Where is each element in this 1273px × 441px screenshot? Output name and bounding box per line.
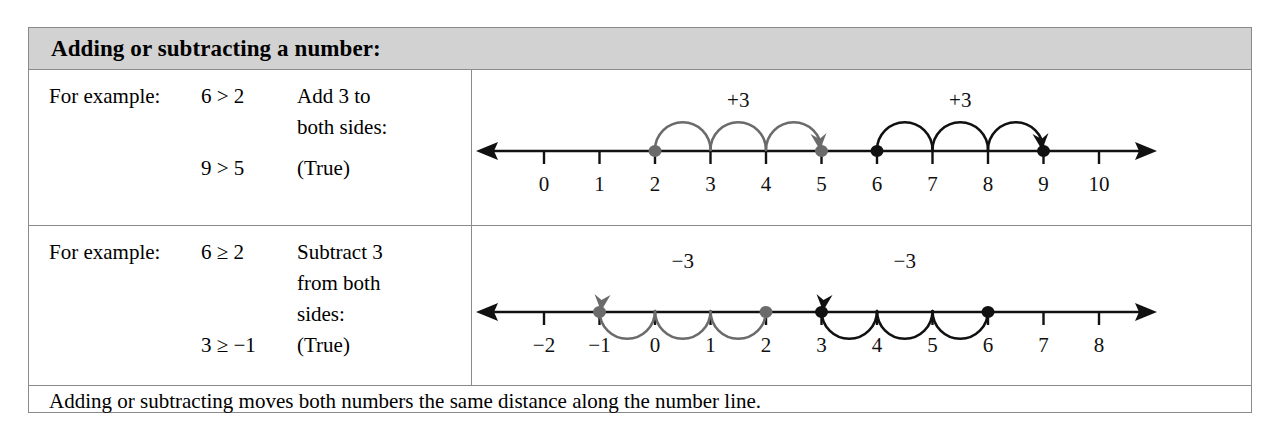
example-text-cell-subtract: For example: 6 ≥ 2 Subtract 3 from both … — [29, 226, 471, 385]
instruction-line-1-add: Add 3 to — [297, 84, 371, 109]
table-header-band: Adding or subtracting a number: — [29, 28, 1251, 70]
svg-text:2: 2 — [650, 172, 661, 196]
inequality-start-add: 6 > 2 — [201, 84, 244, 109]
svg-text:3: 3 — [705, 172, 716, 196]
truth-label-add: (True) — [297, 156, 350, 181]
svg-text:8: 8 — [983, 172, 994, 196]
svg-text:7: 7 — [927, 172, 938, 196]
summary-row: Adding or subtracting moves both numbers… — [29, 386, 1251, 413]
svg-text:1: 1 — [705, 333, 716, 357]
svg-text:4: 4 — [872, 333, 883, 357]
svg-text:6: 6 — [983, 333, 994, 357]
svg-text:5: 5 — [816, 172, 827, 196]
svg-text:+3: +3 — [949, 88, 971, 112]
svg-text:3: 3 — [816, 333, 827, 357]
svg-text:0: 0 — [539, 172, 550, 196]
svg-text:8: 8 — [1094, 333, 1105, 357]
svg-text:10: 10 — [1089, 172, 1110, 196]
number-line-cell-subtract: −2−1012345678−3−3 — [472, 226, 1251, 385]
svg-text:−1: −1 — [588, 333, 610, 357]
svg-text:9: 9 — [1038, 172, 1049, 196]
number-line-add: 012345678910+3+3 — [472, 70, 1253, 225]
number-line-cell-add: 012345678910+3+3 — [472, 70, 1251, 225]
lead-in-label-subtract: For example: — [49, 240, 160, 265]
svg-text:4: 4 — [761, 172, 772, 196]
svg-text:−3: −3 — [672, 249, 694, 273]
example-row-add: For example: 6 > 2 Add 3 to both sides: … — [29, 70, 1251, 226]
inequality-result-subtract: 3 ≥ −1 — [201, 333, 256, 358]
rules-table: Adding or subtracting a number: For exam… — [28, 27, 1252, 413]
svg-text:5: 5 — [927, 333, 938, 357]
instruction-line-2-add: both sides: — [297, 115, 387, 140]
worksheet-figure: Adding or subtracting a number: For exam… — [0, 0, 1273, 441]
summary-text: Adding or subtracting moves both numbers… — [49, 389, 761, 414]
svg-text:6: 6 — [872, 172, 883, 196]
svg-text:1: 1 — [594, 172, 605, 196]
example-text-cell-add: For example: 6 > 2 Add 3 to both sides: … — [29, 70, 471, 225]
instruction-line-2-subtract: from both — [297, 271, 380, 296]
svg-text:−2: −2 — [533, 333, 555, 357]
inequality-start-subtract: 6 ≥ 2 — [201, 240, 244, 265]
truth-label-subtract: (True) — [297, 333, 350, 358]
svg-text:−3: −3 — [894, 249, 916, 273]
svg-text:+3: +3 — [727, 88, 749, 112]
lead-in-label-add: For example: — [49, 84, 160, 109]
svg-text:0: 0 — [650, 333, 661, 357]
instruction-line-1-subtract: Subtract 3 — [297, 240, 383, 265]
table-header-title: Adding or subtracting a number: — [51, 36, 381, 62]
svg-text:2: 2 — [761, 333, 772, 357]
instruction-line-3-subtract: sides: — [297, 302, 345, 327]
svg-text:7: 7 — [1038, 333, 1049, 357]
number-line-subtract: −2−1012345678−3−3 — [472, 226, 1253, 385]
inequality-result-add: 9 > 5 — [201, 156, 244, 181]
example-row-subtract: For example: 6 ≥ 2 Subtract 3 from both … — [29, 226, 1251, 386]
